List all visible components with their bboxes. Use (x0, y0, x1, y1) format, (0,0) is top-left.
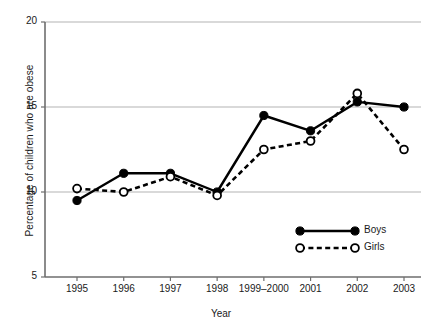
data-point-boys-2002 (353, 98, 361, 106)
axes-group (45, 22, 421, 277)
data-point-boys-1999–2000 (260, 111, 268, 119)
legend-marks-group (296, 227, 359, 252)
data-point-girls-1995 (73, 185, 81, 193)
x-axis-title: Year (0, 308, 442, 319)
data-point-girls-1998 (213, 192, 221, 200)
data-point-girls-1996 (120, 188, 128, 196)
data-point-girls-2003 (400, 146, 408, 154)
data-point-girls-2002 (353, 90, 361, 98)
y-tick-label-5: 5 (13, 270, 37, 281)
series-line-girls (77, 93, 404, 195)
tick-marks-group (41, 22, 404, 281)
data-point-boys-2001 (306, 127, 314, 135)
y-tick-label-10: 10 (13, 185, 37, 196)
x-tick-label-2003: 2003 (372, 283, 436, 294)
data-point-girls-1997 (167, 173, 175, 181)
data-point-boys-1995 (73, 196, 81, 204)
y-tick-label-20: 20 (13, 15, 37, 26)
data-point-boys-1996 (120, 169, 128, 177)
legend-marker-boys (351, 227, 359, 235)
y-axis-title: Percentage of children who are obese (24, 26, 35, 276)
plot-canvas (0, 0, 442, 330)
data-point-girls-1999–2000 (260, 146, 268, 154)
legend-label-girls: Girls (364, 241, 385, 252)
y-tick-label-15: 15 (13, 100, 37, 111)
obesity-line-chart: Percentage of children who are obese Yea… (0, 0, 442, 330)
legend-marker-girls (296, 244, 304, 252)
legend-marker-girls (351, 244, 359, 252)
series-line-boys (77, 102, 404, 201)
data-point-boys-2003 (400, 103, 408, 111)
legend-label-boys: Boys (364, 224, 386, 235)
legend-marker-boys (296, 227, 304, 235)
data-point-girls-2001 (307, 137, 315, 145)
